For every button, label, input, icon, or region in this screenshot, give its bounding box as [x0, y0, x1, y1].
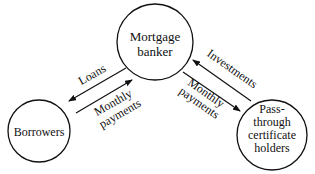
node-label: Borrowers — [14, 125, 65, 139]
node-label: holders — [254, 141, 290, 155]
mortgage-flow-diagram: Mortgage banker Borrowers Pass- through … — [0, 0, 315, 174]
node-label: through — [253, 115, 290, 129]
node-mortgage-banker: Mortgage banker — [117, 4, 193, 80]
node-label: Mortgage — [130, 29, 181, 44]
node-pass-through-holders: Pass- through certificate holders — [237, 100, 307, 170]
edge-borrower-payments: Monthly payments — [76, 80, 144, 131]
edge-label: Investments — [205, 46, 261, 91]
edge-label: Loans — [76, 61, 109, 88]
edge-investor-payments: Monthly payments — [176, 72, 240, 122]
node-borrowers: Borrowers — [8, 100, 70, 162]
node-label: Pass- — [259, 102, 284, 116]
node-label: certificate — [248, 128, 296, 142]
node-label: banker — [137, 44, 173, 59]
